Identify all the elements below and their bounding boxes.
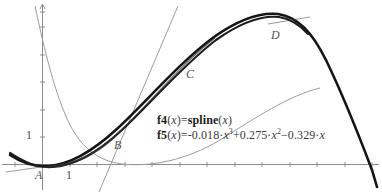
plot-svg <box>0 0 382 193</box>
f5-polynomial-curve <box>10 14 377 187</box>
point-label-a: A <box>35 168 42 183</box>
graph-canvas: A B C D 1 1 f4(x)=spline(x) f5(x)=-0.018… <box>0 0 382 193</box>
x-tick-label-1: 1 <box>66 168 72 183</box>
equation-f4: f4(x)=spline(x) <box>157 113 382 128</box>
point-label-d: D <box>271 28 280 43</box>
equation-f5: f5(x)=-0.018·x3+0.275·x2−0.329·x <box>157 128 382 143</box>
equation-legend: f4(x)=spline(x) f5(x)=-0.018·x3+0.275·x2… <box>157 113 382 143</box>
point-label-c: C <box>186 67 194 82</box>
point-label-b: B <box>114 138 121 153</box>
y-tick-label-1: 1 <box>26 128 32 143</box>
